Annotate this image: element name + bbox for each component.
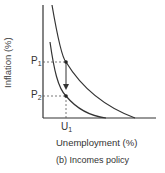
caption: (b) Incomes policy <box>56 155 129 165</box>
u1-label: U1 <box>61 121 72 133</box>
point-p1 <box>64 60 68 64</box>
p2-label-main: P <box>31 89 38 100</box>
x-axis-label: Unemployment (%) <box>56 137 137 148</box>
p1-label-sub: 1 <box>38 60 42 67</box>
lower-phillips-curve <box>50 42 106 118</box>
y-axis-label: Inflation (%) <box>2 37 13 88</box>
p2-label-sub: 2 <box>38 94 42 101</box>
arrow-head-icon <box>63 84 69 90</box>
p1-label: P1 <box>31 55 42 67</box>
p1-label-main: P <box>31 55 38 66</box>
p2-label: P2 <box>31 89 42 101</box>
u1-label-sub: 1 <box>68 126 72 133</box>
point-p2 <box>64 94 68 98</box>
